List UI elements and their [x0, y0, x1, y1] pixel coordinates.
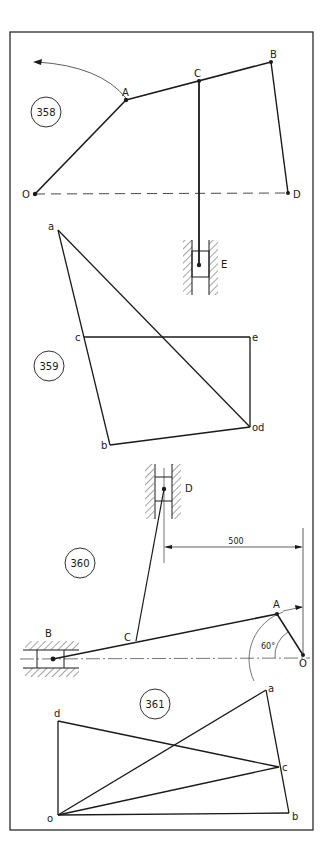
angle-arc: [275, 632, 288, 658]
point-label-b: b: [101, 440, 107, 451]
vector-dc: [58, 721, 279, 767]
vector-oc: [58, 767, 279, 815]
point-label-b: b: [292, 811, 298, 822]
crank-arrow-icon: [295, 605, 303, 610]
point-label-C: C: [124, 632, 131, 643]
figure-number: 360: [70, 558, 89, 569]
point-label-D: D: [293, 189, 301, 200]
dimension-label: 500: [228, 537, 243, 546]
link-BD: [271, 62, 288, 193]
vector-ob: [58, 813, 289, 815]
figure-359: 359 a c e od b: [34, 221, 264, 451]
point-label-A: A: [122, 87, 129, 98]
slider-E: [183, 240, 218, 295]
point-label-C: C: [194, 68, 201, 79]
dimension-arrow-left-icon: [164, 545, 172, 549]
point-label-od: od: [252, 422, 264, 433]
figure-358: 358 O A C B D E: [22, 49, 301, 295]
mechanism-diagrams: 358 O A C B D E 359: [0, 0, 334, 859]
base-line: [35, 193, 288, 194]
arrow-head-icon: [33, 59, 42, 65]
angle-label: 60°: [261, 642, 275, 651]
vector-ab: [266, 690, 289, 813]
point-label-d: d: [54, 708, 60, 719]
figure-number: 359: [39, 361, 58, 372]
point-label-c: c: [282, 762, 288, 773]
link-AO: [277, 614, 303, 655]
point-label-B: B: [45, 628, 52, 639]
point-label-O: O: [299, 658, 307, 669]
point-label-o: o: [47, 813, 53, 824]
point-label-a: a: [48, 221, 54, 232]
figure-360: 360 500: [20, 464, 310, 681]
point-label-A: A: [273, 599, 280, 610]
point-label-O: O: [22, 189, 30, 200]
point-label-E: E: [221, 259, 227, 270]
link-BA: [53, 614, 277, 659]
rotation-arrow: [37, 62, 126, 98]
point-label-B: B: [270, 49, 277, 60]
point-label-e: e: [252, 332, 258, 343]
figure-361: 361 a d c b o: [47, 683, 298, 824]
point-label-a: a: [268, 683, 274, 694]
figure-number: 358: [36, 107, 55, 118]
vector-bd: [110, 427, 250, 445]
point-label-c: c: [75, 332, 81, 343]
dimension-arrow-right-icon: [295, 545, 303, 549]
point-label-D: D: [185, 483, 193, 494]
figure-number: 361: [145, 699, 164, 710]
